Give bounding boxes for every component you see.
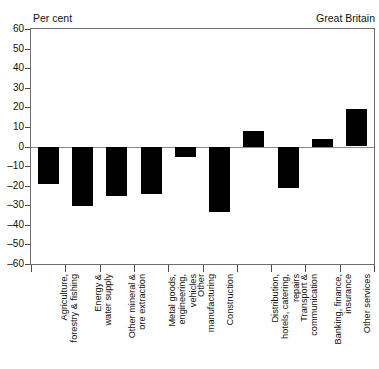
x-axis-category-label: Other services — [362, 274, 379, 369]
x-axis-category-label-line: manufacturing — [206, 274, 216, 369]
x-axis-category-label-line: Metal goods, — [167, 274, 177, 369]
x-axis-category-label-line: Transport & — [299, 274, 309, 369]
y-axis-tick-label: –40 — [0, 220, 24, 230]
bar — [106, 147, 127, 196]
bar — [209, 147, 230, 212]
y-axis-tick-label: –50 — [0, 239, 24, 249]
y-axis-tick-label: 30 — [0, 83, 24, 93]
x-axis-category-label: Energy &water supply — [93, 274, 123, 369]
x-axis-category-label: Transport &communication — [299, 274, 329, 369]
x-axis-tick-mark — [340, 265, 341, 272]
x-axis-tick-mark — [65, 265, 66, 272]
x-axis-tick-mark — [374, 265, 375, 272]
x-axis-category-label-line: Construction — [225, 274, 235, 369]
x-axis-category-label-line: Agriculture, — [59, 274, 69, 369]
x-axis-category-label: Distribution,hotels, catering,repairs — [270, 274, 300, 369]
y-axis-labels: 6050403020100–10–20–30–40–50–60 — [0, 28, 24, 265]
y-axis-tick-label: 40 — [0, 63, 24, 73]
x-axis-tick-mark — [271, 265, 272, 272]
x-axis-category-label-line: engineering, — [177, 274, 187, 369]
x-axis-tick-mark — [237, 265, 238, 272]
chart-header: Per cent Great Britain — [30, 11, 375, 27]
bar — [243, 131, 264, 147]
bars-layer — [31, 29, 374, 264]
x-axis-category-label-line: forestry & fishing — [69, 274, 79, 369]
x-axis-category-label: Other mineral &ore extraction — [127, 274, 157, 369]
plot-area — [31, 29, 374, 264]
bar — [175, 147, 196, 157]
bar — [346, 109, 367, 146]
x-axis-tick-mark — [203, 265, 204, 272]
bar — [312, 139, 333, 147]
x-axis-category-label: Metal goods,engineering,vehicles — [167, 274, 197, 369]
x-axis-category-label: Othermanufacturing — [196, 274, 226, 369]
y-axis-tick-label: 60 — [0, 24, 24, 34]
x-axis-tick-mark — [100, 265, 101, 272]
y-axis-tick-label: 20 — [0, 102, 24, 112]
y-axis-tick-label: 0 — [0, 142, 24, 152]
x-axis-category-label-line: ore extraction — [137, 274, 147, 369]
x-axis-tick-mark — [134, 265, 135, 272]
y-axis-tick-label: –10 — [0, 161, 24, 171]
bar — [141, 147, 162, 194]
x-axis-tick-mark — [168, 265, 169, 272]
y-axis-unit-label: Per cent — [33, 11, 72, 25]
x-axis-category-label: Banking, finance,insurance — [333, 274, 363, 369]
x-axis-category-labels: Agriculture,forestry & fishingEnergy &wa… — [31, 274, 374, 369]
x-axis-category-label-line: insurance — [343, 274, 353, 369]
x-axis-category-label-line: Other mineral & — [127, 274, 137, 369]
x-axis-tick-mark — [31, 265, 32, 272]
y-axis-tick-label: 10 — [0, 122, 24, 132]
x-axis-category-label: Agriculture,forestry & fishing — [59, 274, 89, 369]
x-axis-category-label: Construction — [225, 274, 255, 369]
x-axis-category-label-line: Other — [196, 274, 206, 369]
x-axis-tick-mark — [305, 265, 306, 272]
x-axis-category-label-line: hotels, catering, — [280, 274, 290, 369]
x-axis-category-label-line: Energy & — [93, 274, 103, 369]
bar — [38, 147, 59, 184]
bar — [278, 147, 299, 188]
x-axis-category-label-line: Other services — [362, 274, 372, 369]
y-axis-tick-label: –20 — [0, 181, 24, 191]
region-label: Great Britain — [316, 11, 375, 25]
bar-chart-figure: Per cent Great Britain 6050403020100–10–… — [0, 0, 379, 369]
y-axis-tick-label: –30 — [0, 200, 24, 210]
x-axis-category-label-line: communication — [309, 274, 319, 369]
y-axis-tick-label: 50 — [0, 44, 24, 54]
y-axis-tick-label: –60 — [0, 259, 24, 269]
x-axis-ticks — [31, 265, 374, 272]
x-axis-category-label-line: water supply — [103, 274, 113, 369]
bar — [72, 147, 93, 206]
x-axis-category-label-line: Distribution, — [270, 274, 280, 369]
x-axis-category-label-line: Banking, finance, — [333, 274, 343, 369]
